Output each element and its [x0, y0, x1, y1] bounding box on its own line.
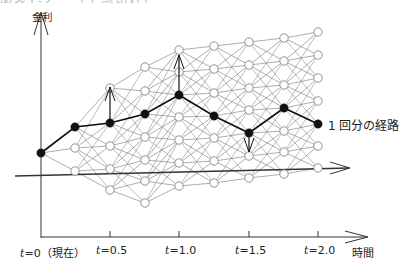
lattice-node [175, 182, 183, 190]
lattice-node [71, 144, 79, 152]
lattice-edge [179, 46, 214, 72]
lattice-node [210, 179, 218, 187]
lattice-node [245, 174, 253, 182]
lattice-edge [284, 32, 318, 61]
lattice-edge [179, 163, 214, 183]
lattice-node [210, 89, 218, 97]
lattice-edge [179, 138, 214, 163]
lattice-node [141, 87, 149, 95]
lattice-node [280, 127, 288, 135]
lattice-edge [145, 95, 179, 137]
lattice-edge [284, 32, 318, 38]
lattice-node [280, 170, 288, 178]
lattice-edge [284, 61, 318, 78]
lattice-edge [284, 108, 318, 146]
lattice-node [141, 177, 149, 185]
lattice-node [280, 57, 288, 65]
lattice-node [314, 28, 322, 36]
path-node [210, 112, 218, 120]
path-node [314, 120, 322, 128]
lattice-edge [179, 161, 214, 186]
lattice-node [141, 199, 149, 207]
lattice-edge [284, 32, 318, 85]
lattice-edge [249, 85, 284, 110]
x-tick-label: t=0（現在） [20, 244, 85, 260]
lattice-node [71, 167, 79, 175]
lattice-node [314, 51, 322, 59]
lattice-edge [110, 190, 145, 203]
lattice-edge [249, 174, 284, 178]
lattice-node [245, 61, 253, 69]
lattice-edge [145, 163, 179, 203]
lattice-edge [284, 131, 318, 146]
lattice-edge [110, 88, 145, 91]
lattice-edge [145, 186, 179, 203]
lattice-node [314, 74, 322, 82]
lattice-edge [145, 114, 179, 117]
lattice-edge [214, 69, 249, 110]
lattice-edge [284, 55, 318, 61]
lattice-edge [145, 117, 179, 160]
lattice-edge [179, 183, 214, 186]
lattice-node [245, 38, 253, 46]
lattice-node [106, 142, 114, 150]
lattice-edge [284, 124, 318, 174]
lattice-edge [41, 153, 75, 171]
lattice-edge [249, 38, 284, 42]
x-tick-label: t=1.5 [235, 244, 266, 257]
lattice-edge [145, 50, 179, 91]
lattice-edge [214, 116, 249, 156]
lattice-edge [145, 72, 179, 114]
path-legend-label: 1 回分の経路 [328, 116, 399, 133]
lattice-node [245, 84, 253, 92]
lattice-node [314, 142, 322, 150]
path-node [37, 149, 45, 157]
lattice-edge [214, 42, 249, 69]
x-axis-label: 時間 [352, 244, 374, 260]
lattice-edge [179, 46, 214, 95]
lattice-edge [249, 38, 284, 88]
lattice-edge [179, 50, 214, 69]
lattice-edge [249, 88, 284, 108]
lattice-edge [179, 69, 214, 95]
x-tick-label: t=2.0 [304, 244, 335, 257]
lattice-edge [249, 85, 284, 133]
reference-line [15, 168, 349, 176]
lattice-edge [214, 65, 249, 69]
lattice-edge [179, 117, 214, 138]
path-node [280, 104, 288, 112]
lattice-edge [284, 55, 318, 108]
lattice-edge [284, 124, 318, 152]
lattice-edge [110, 88, 145, 114]
lattice-edge [179, 72, 214, 93]
lattice-edge [179, 116, 214, 140]
lattice-edge [249, 152, 284, 178]
lattice-edge [179, 46, 214, 50]
lattice-edge [214, 42, 249, 46]
lattice-node [141, 63, 149, 71]
lattice-edge [249, 133, 284, 174]
lattice-edge [145, 181, 179, 186]
lattice-edge [75, 123, 110, 171]
lattice-edge [179, 138, 214, 186]
lattice-node [280, 34, 288, 42]
lattice-node [141, 156, 149, 164]
lattice-node [210, 157, 218, 165]
lattice-node [280, 81, 288, 89]
lattice-edge [75, 146, 110, 171]
lattice-node [106, 186, 114, 194]
lattice-edge [145, 50, 179, 67]
lattice-node [175, 113, 183, 121]
lattice-edge [249, 38, 284, 65]
lattice-edge [284, 78, 318, 108]
lattice-edge [284, 61, 318, 101]
x-tick-label: t=1.0 [165, 244, 196, 257]
lattice-node [175, 46, 183, 54]
lattice-edge [75, 88, 110, 127]
lattice-node [314, 97, 322, 105]
lattice-node [314, 164, 322, 172]
path-node [141, 110, 149, 118]
lattice-edge [249, 108, 284, 156]
lattice-node [280, 148, 288, 156]
lattice-node [106, 165, 114, 173]
